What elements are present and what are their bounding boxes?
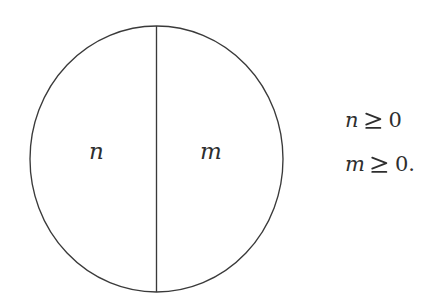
condition-variable: n (345, 110, 359, 131)
condition-row: m 0 . (345, 154, 441, 175)
greater-than-or-equal-icon (364, 111, 384, 130)
condition-value: 0 (395, 154, 408, 175)
region-label-left: n (89, 140, 104, 163)
conditions-block: n 0 m 0 . (345, 110, 441, 175)
condition-terminator: . (408, 154, 415, 175)
figure-canvas: n m n 0 m 0 . (0, 0, 443, 306)
condition-value: 0 (389, 110, 402, 131)
condition-row: n 0 (345, 110, 441, 131)
condition-variable: m (345, 154, 365, 175)
region-label-right: m (200, 140, 222, 163)
greater-than-or-equal-icon (370, 155, 390, 174)
